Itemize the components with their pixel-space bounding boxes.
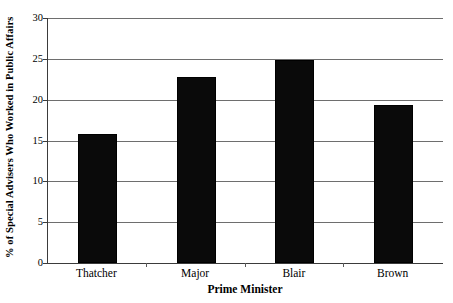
y-tick-mark-20 xyxy=(43,100,47,101)
y-tick-label-20: 20 xyxy=(3,95,43,105)
x-category-label-brown: Brown xyxy=(333,266,453,280)
y-tick-label-10: 10 xyxy=(3,176,43,186)
gridline-y-20 xyxy=(48,100,443,101)
y-axis-tick-labels: 051015202530 xyxy=(0,18,43,263)
x-axis-title: Prime Minister xyxy=(47,282,443,296)
bar-blair xyxy=(275,60,314,263)
gridline-y-25 xyxy=(48,59,443,60)
y-tick-mark-5 xyxy=(43,222,47,223)
y-tick-mark-10 xyxy=(43,181,47,182)
bar-thatcher xyxy=(78,134,117,263)
y-tick-mark-15 xyxy=(43,141,47,142)
y-tick-mark-25 xyxy=(43,59,47,60)
y-tick-mark-30 xyxy=(43,18,47,19)
y-tick-label-5: 5 xyxy=(3,217,43,227)
bar-brown xyxy=(374,105,413,263)
plot-area xyxy=(47,18,443,263)
bar-chart: % of Special Advisers Who Worked in Publ… xyxy=(0,0,453,303)
y-tick-label-25: 25 xyxy=(3,54,43,64)
y-tick-label-30: 30 xyxy=(3,13,43,23)
bar-major xyxy=(177,77,216,263)
y-tick-label-15: 15 xyxy=(3,136,43,146)
gridline-y-30 xyxy=(48,18,443,19)
